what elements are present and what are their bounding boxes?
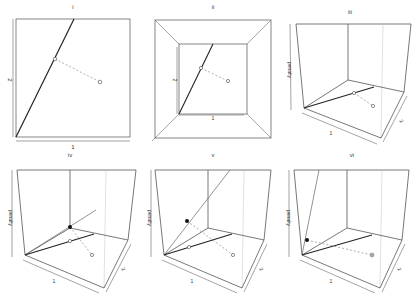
- box-edge: [294, 170, 302, 255]
- box-edge: [104, 240, 128, 288]
- projection-dashed-line: [354, 93, 373, 106]
- target-point: [226, 79, 229, 82]
- box-edge: [264, 170, 271, 240]
- target-point: [371, 104, 374, 107]
- projection-point: [199, 66, 202, 69]
- x-axis-label: 1: [330, 130, 333, 136]
- box-edge: [164, 255, 242, 288]
- panel-v: v penalty 1 2: [140, 148, 280, 298]
- panel-ii: ii 1 2: [140, 0, 280, 150]
- plot-frame: [16, 19, 130, 137]
- box-edge: [348, 80, 404, 92]
- x-axis-label: 1: [212, 115, 215, 121]
- penalty-point: [185, 219, 189, 223]
- target-point: [98, 80, 102, 84]
- penalty-point: [68, 225, 72, 229]
- box-edge: [155, 170, 164, 255]
- projection-point: [187, 245, 190, 248]
- y-axis-label: 2: [172, 79, 178, 82]
- x-axis-arrow: [162, 260, 237, 293]
- constraint-line: [304, 87, 374, 108]
- z-axis-label: penalty: [286, 210, 292, 227]
- projection-dashed-line: [187, 221, 233, 255]
- panel-title: iii: [348, 9, 352, 15]
- projection-dashed-line: [307, 240, 372, 255]
- panel-vi: vi penalty 1 2: [277, 148, 417, 298]
- hidden-edge: [381, 24, 383, 138]
- box-edge: [296, 24, 304, 108]
- constraint-line: [302, 235, 372, 255]
- y-axis-label: 2: [258, 266, 265, 272]
- y-axis-label: 2: [396, 266, 403, 272]
- box-edge: [302, 228, 347, 255]
- box-edge: [304, 80, 348, 108]
- projection-point: [68, 239, 71, 242]
- projection-point: [53, 57, 57, 61]
- panel-iii: iii penalty 1 2: [277, 0, 417, 150]
- box-edge: [402, 170, 409, 240]
- x-axis-arrow: [23, 260, 99, 293]
- x-axis-label: 1: [330, 278, 333, 284]
- y-axis-label: 2: [7, 78, 13, 82]
- panel-iv: iv penalty 1 2: [0, 148, 140, 298]
- box-edge: [404, 24, 411, 92]
- panel-title: v: [212, 152, 215, 158]
- box-edge: [17, 170, 25, 255]
- projection-dashed-line: [55, 59, 100, 82]
- panel-title: iv: [68, 152, 72, 158]
- panel-v-plot: v penalty 1 2: [140, 148, 280, 298]
- x-axis-arrow: [302, 113, 377, 144]
- projection-point: [352, 91, 355, 94]
- x-axis-label: 1: [191, 278, 194, 284]
- corner-edge: [155, 114, 179, 138]
- box-edge: [242, 240, 264, 288]
- corner-edge: [247, 20, 271, 44]
- z-axis-label: penalty: [8, 210, 14, 227]
- target-point: [370, 253, 374, 257]
- box-edge: [380, 240, 402, 288]
- projection-dashed-line: [70, 227, 92, 255]
- target-point: [231, 253, 234, 256]
- box-edge: [302, 255, 380, 288]
- constraint-line: [179, 44, 213, 114]
- box-edge: [304, 108, 381, 138]
- constraint-line: [16, 19, 74, 137]
- penalty-line: [25, 210, 96, 255]
- panel-iv-plot: iv penalty 1 2: [0, 148, 140, 298]
- hidden-edge: [380, 170, 382, 288]
- inner-frame: [179, 44, 247, 114]
- x-axis-label: 1: [53, 278, 56, 284]
- y-axis-label: 2: [398, 118, 405, 124]
- penalty-point: [305, 238, 309, 242]
- projection-dashed-line: [201, 68, 228, 81]
- box-edge: [128, 170, 136, 240]
- corner-edge: [155, 20, 179, 44]
- hidden-edge: [104, 170, 106, 288]
- box-edge: [164, 228, 208, 255]
- x-axis-arrow: [300, 260, 375, 293]
- panel-title: ii: [212, 4, 215, 10]
- panel-i: i 1 2: [0, 0, 140, 150]
- penalty-line: [164, 170, 230, 255]
- z-axis-arrow: [152, 137, 156, 141]
- panel-title: vi: [350, 152, 354, 158]
- z-axis-label: penalty: [287, 62, 293, 79]
- panel-vi-plot: vi penalty 1 2: [277, 148, 417, 298]
- box-edge: [25, 255, 104, 288]
- constraint-line: [164, 234, 232, 255]
- corner-edge: [247, 114, 271, 138]
- box-edge: [208, 228, 264, 240]
- box-edge: [347, 228, 402, 240]
- panel-ii-plot: ii 1 2: [140, 0, 280, 150]
- hidden-edge: [242, 170, 244, 288]
- panel-iii-plot: iii penalty 1 2: [277, 0, 417, 150]
- panel-title: i: [72, 4, 73, 10]
- target-point: [90, 253, 93, 256]
- panel-i-plot: i 1 2: [0, 0, 140, 150]
- z-axis-label: penalty: [147, 210, 153, 227]
- y-axis-label: 2: [120, 266, 127, 272]
- box-edge: [381, 92, 404, 138]
- constraint-line: [25, 234, 94, 255]
